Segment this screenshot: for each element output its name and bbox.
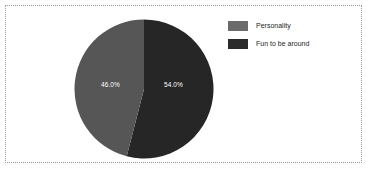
chart-legend: Personality Fun to be around: [228, 17, 358, 53]
legend-swatch-personality: [228, 21, 248, 31]
legend-item-fun-to-be-around[interactable]: Fun to be around: [228, 35, 358, 53]
pie-chart-svg[interactable]: [74, 19, 214, 159]
pie-slice-label-personality: 46.0%: [101, 81, 120, 88]
pie-chart-plot-area[interactable]: 46.0% 54.0% Personality Fun to be around: [6, 6, 363, 164]
pie-slices: [75, 20, 214, 159]
chart-frame: 46.0% 54.0% Personality Fun to be around: [0, 0, 377, 176]
legend-item-personality[interactable]: Personality: [228, 17, 358, 35]
pie-chart[interactable]: 46.0% 54.0%: [74, 19, 214, 159]
legend-label-fun-to-be-around: Fun to be around: [256, 39, 309, 49]
legend-swatch-fun-to-be-around: [228, 39, 248, 49]
chart-placeholder-border[interactable]: 46.0% 54.0% Personality Fun to be around: [5, 5, 362, 163]
pie-slice-label-fun-to-be-around: 54.0%: [164, 81, 183, 88]
legend-label-personality: Personality: [256, 21, 291, 31]
